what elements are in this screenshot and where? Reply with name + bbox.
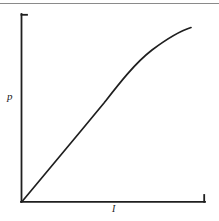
plot-svg: [0, 0, 219, 221]
figure-container: p I: [0, 0, 219, 221]
x-axis-label: I: [112, 204, 115, 214]
y-axis-label: p: [7, 91, 13, 102]
data-curve: [23, 28, 192, 202]
